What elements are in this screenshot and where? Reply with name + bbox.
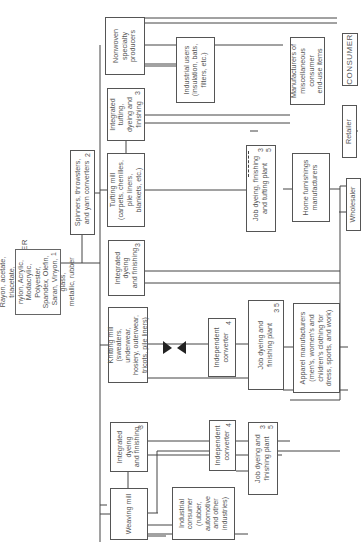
- independent-converter-weave-number: 4: [225, 423, 234, 427]
- industrial-consumer-label: Industrial consumer (rubber, automotive …: [178, 496, 230, 531]
- integrated-dyeing-knit-number: 3: [134, 243, 143, 247]
- misc-manufacturers-label: Manufacturers of miscellaneous consumer …: [290, 44, 324, 98]
- spinners-box: Spinners, throwsters, and yarn converter…: [70, 150, 95, 235]
- wholesaler-label: Wholesaler: [349, 187, 358, 223]
- weaving-mill-box: Weaving mill: [110, 488, 148, 540]
- independent-converter-knit-number: 4: [225, 321, 234, 325]
- industrial-consumer-box: Industrial consumer (rubber, automotive …: [172, 487, 235, 540]
- fiber-producer-box: Rayon, acetate, triacetate, nylon, Acryl…: [15, 249, 61, 315]
- independent-converter-knit-box: Independent converter 4: [208, 318, 236, 377]
- integrated-dyeing-weave-box: Integrated dyeing and finishing 3: [110, 422, 148, 472]
- consumer-box: CONSUMER: [342, 33, 358, 86]
- job-dyeing-knit-label: Job dyeing and finishing plant: [257, 321, 274, 370]
- integrated-tufting-box: Integrated tufting, dyeing and finishing…: [107, 88, 145, 141]
- textile-flow-diagram: FIBER PRODUCER Rayon, acetate, triacetat…: [0, 0, 363, 551]
- apparel-manufacturers-box: Apparel manufacturers (men's, women's an…: [293, 303, 340, 393]
- arrow-down-icon: [163, 341, 172, 354]
- job-dyeing-weave-label: Job dyeing and finishing plant: [254, 434, 271, 483]
- integrated-dyeing-weave-number: 3: [137, 425, 146, 429]
- independent-converter-weave-box: Independent converter 4: [209, 420, 236, 471]
- weaving-mill-label: Weaving mill: [125, 494, 134, 535]
- retailer-label: Retailer: [345, 119, 354, 144]
- industrial-users-box: Industrial users (insulation, bats, filt…: [176, 37, 215, 103]
- independent-converter-knit-label: Independent converter: [213, 328, 230, 368]
- integrated-dyeing-knit-label: Integrated dyeing and finishing: [114, 248, 140, 288]
- spinners-number: 2: [84, 153, 93, 157]
- job-dyeing-weave-box: Job dyeing and finishing plant 3 5: [248, 422, 278, 495]
- tufting-mill-label: Tufting mill (carpets, chenilles, pile l…: [109, 160, 143, 220]
- home-furnishings-label: Home furnishings manufacturers: [302, 160, 319, 216]
- fiber-producer-number: 1: [50, 252, 59, 256]
- misc-manufacturers-box: Manufacturers of miscellaneous consumer …: [290, 37, 325, 105]
- knitting-mill-label: Knitting mill (sweaters, underwear, hosi…: [107, 311, 150, 379]
- integrated-dyeing-knit-box: Integrated dyeing and finishing 3: [108, 240, 145, 296]
- retailer-box: Retailer: [342, 105, 357, 158]
- wholesaler-box: Wholesaler: [346, 178, 361, 231]
- home-furnishings-box: Home furnishings manufacturers: [292, 153, 330, 222]
- integrated-tufting-number: 3: [134, 91, 143, 95]
- integrated-dyeing-weave-label: Integrated dyeing and finishing: [116, 427, 142, 467]
- job-dyeing-tufting-box: Job dyeing, finishing and tufting plant …: [246, 145, 276, 232]
- industrial-users-label: Industrial users (insulation, bats, filt…: [183, 44, 209, 96]
- knitting-mill-box: Knitting mill (sweaters, underwear, hosi…: [108, 307, 148, 383]
- apparel-manufacturers-label: Apparel manufacturers (men's, women's an…: [299, 310, 333, 387]
- spinners-label: Spinners, throwsters, and yarn converter…: [74, 159, 91, 227]
- nonwoven-label: Nonwoven specialty producers: [112, 29, 138, 63]
- job-dyeing-tufting-number-5: 5: [265, 148, 274, 152]
- integrated-tufting-label: Integrated tufting, dyeing and finishing: [109, 97, 143, 132]
- dashed-divider: [248, 151, 249, 177]
- arrow-up-icon: [177, 341, 186, 354]
- tufting-mill-box: Tufting mill (carpets, chenilles, pile l…: [107, 153, 145, 227]
- job-dyeing-knit-box: Job dyeing and finishing plant 3 5: [248, 300, 284, 390]
- job-dyeing-tufting-label: Job dyeing, finishing and tufting plant: [252, 156, 269, 221]
- nonwoven-box: Nonwoven specialty producers: [105, 17, 145, 75]
- fiber-producer-label: Rayon, acetate, triacetate, nylon, Acryl…: [0, 253, 77, 311]
- job-dyeing-knit-number: 3 5: [273, 303, 282, 313]
- consumer-label: CONSUMER: [346, 34, 355, 85]
- independent-converter-weave-label: Independent converter: [214, 426, 231, 466]
- job-dyeing-weave-number-5: 5: [267, 425, 276, 429]
